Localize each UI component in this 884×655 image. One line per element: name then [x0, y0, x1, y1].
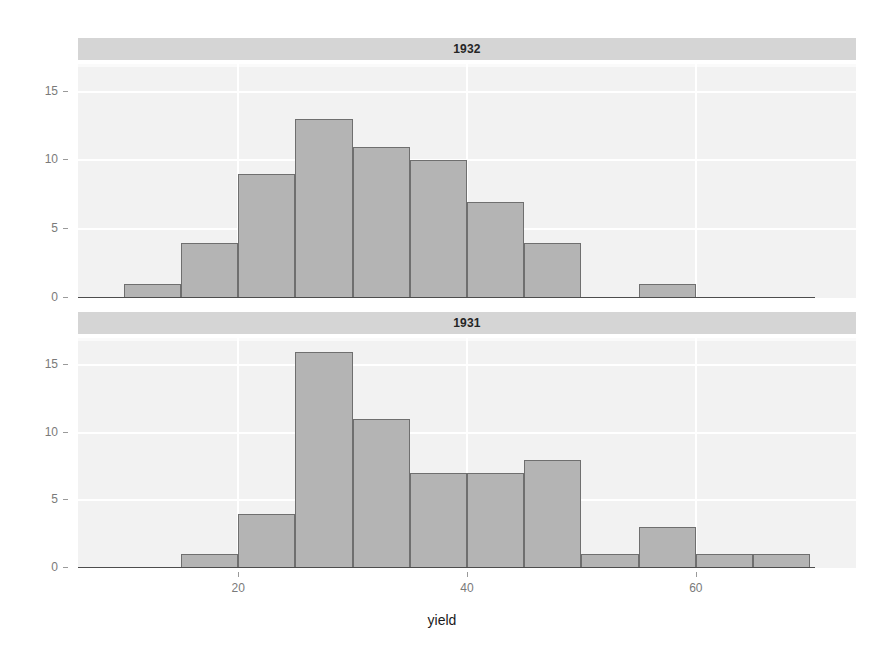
y-tick-mark — [63, 159, 68, 160]
y-tick-label: 5 — [30, 221, 58, 235]
x-tick-label: 20 — [208, 581, 268, 595]
x-axis-title: yield — [0, 612, 884, 628]
y-tick-label: 10 — [30, 425, 58, 439]
y-tick-mark — [63, 228, 68, 229]
x-axis-line — [78, 567, 815, 568]
histogram-bar — [524, 460, 581, 568]
histogram-bar — [238, 174, 295, 298]
histogram-bar — [524, 243, 581, 298]
histogram-bar — [295, 352, 352, 568]
histogram-bar — [181, 554, 238, 568]
gridline-vertical — [695, 64, 697, 298]
y-tick-label: 15 — [30, 84, 58, 98]
histogram-bar — [581, 554, 638, 568]
y-tick-mark — [63, 297, 68, 298]
histogram-bar — [467, 202, 524, 298]
histogram-bar — [410, 473, 467, 568]
histogram-bar — [639, 527, 696, 568]
y-tick-label: 0 — [30, 290, 58, 304]
y-tick-label: 0 — [30, 560, 58, 574]
y-tick-mark — [63, 91, 68, 92]
x-tick-mark — [696, 572, 697, 577]
histogram-bar — [467, 473, 524, 568]
histogram-bar — [353, 419, 410, 568]
facet-strip-label: 1932 — [453, 42, 481, 56]
histogram-figure: 1932 051015 1931 051015 204060 yield — [0, 0, 884, 655]
plot-panel-1931 — [78, 338, 856, 568]
x-tick-label: 40 — [437, 581, 497, 595]
histogram-bar — [353, 147, 410, 298]
y-tick-label: 15 — [30, 357, 58, 371]
histogram-bar — [295, 119, 352, 298]
histogram-bar — [753, 554, 810, 568]
x-tick-mark — [238, 572, 239, 577]
histogram-bar — [238, 514, 295, 568]
plot-panel-1932 — [78, 64, 856, 298]
facet-strip-label: 1931 — [453, 316, 481, 330]
x-tick-mark — [467, 572, 468, 577]
y-tick-mark — [63, 499, 68, 500]
facet-strip-1932: 1932 — [78, 38, 856, 60]
facet-strip-1931: 1931 — [78, 312, 856, 334]
y-tick-mark — [63, 432, 68, 433]
histogram-bar — [410, 160, 467, 298]
y-tick-mark — [63, 567, 68, 568]
y-tick-label: 5 — [30, 492, 58, 506]
x-tick-label: 60 — [666, 581, 726, 595]
histogram-bar — [181, 243, 238, 298]
x-axis-line — [78, 297, 815, 298]
histogram-bar — [639, 284, 696, 298]
y-tick-mark — [63, 364, 68, 365]
y-tick-label: 10 — [30, 152, 58, 166]
histogram-bar — [124, 284, 181, 298]
histogram-bar — [696, 554, 753, 568]
